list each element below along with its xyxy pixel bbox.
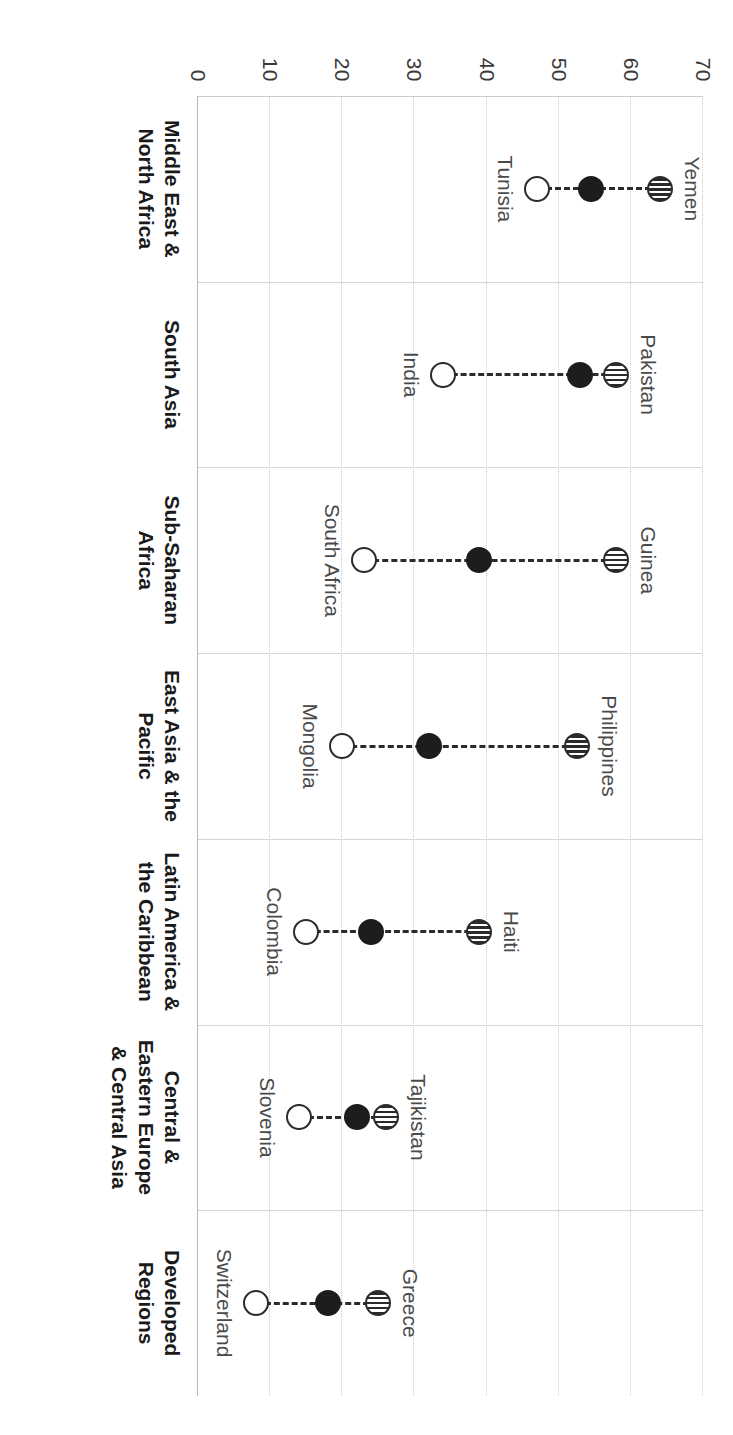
category-label-6: Developed Regions <box>133 1217 186 1389</box>
data-point-average[interactable] <box>416 733 442 759</box>
category-label-0: Middle East & North Africa <box>133 103 186 275</box>
point-label-low: Mongolia <box>298 703 322 788</box>
data-point-low[interactable] <box>286 1104 312 1130</box>
point-label-high: Philippines <box>597 695 621 797</box>
point-label-high: Haiti <box>499 911 523 953</box>
data-point-high[interactable] <box>603 547 629 573</box>
category-label-4: Latin America & the Caribbean <box>133 846 186 1018</box>
data-point-high[interactable] <box>647 176 673 202</box>
gridline-70 <box>702 96 703 1396</box>
data-point-low[interactable] <box>329 733 355 759</box>
category-label-2: Sub-Saharan Africa <box>133 474 186 646</box>
category-separator <box>198 839 703 840</box>
data-point-high[interactable] <box>365 1290 391 1316</box>
point-label-low: Switzerland <box>212 1249 236 1358</box>
range-connector <box>306 930 479 933</box>
category-separator <box>198 467 703 468</box>
point-label-low: Colombia <box>262 887 286 976</box>
plot-left-border <box>198 96 703 97</box>
data-point-average[interactable] <box>315 1290 341 1316</box>
point-label-high: Guinea <box>636 526 660 594</box>
category-separator <box>198 653 703 654</box>
point-label-high: Greece <box>398 1269 422 1338</box>
chart-canvas: 010203040506070YemenTunisiaPakistanIndia… <box>0 0 733 1435</box>
range-connector <box>342 745 576 748</box>
y-tick-label: 40 <box>475 58 499 82</box>
data-point-low[interactable] <box>243 1290 269 1316</box>
data-point-low[interactable] <box>430 362 456 388</box>
category-axis: Middle East & North AfricaSouth AsiaSub-… <box>105 96 185 1396</box>
y-tick-label: 70 <box>691 58 715 82</box>
y-tick-label: 20 <box>330 58 354 82</box>
point-label-low: India <box>399 352 423 398</box>
point-label-low: South Africa <box>320 504 344 617</box>
data-point-average[interactable] <box>344 1104 370 1130</box>
point-label-low: Tunisia <box>493 155 517 222</box>
data-point-high[interactable] <box>603 362 629 388</box>
point-label-low: Slovenia <box>255 1077 279 1158</box>
gridline-10 <box>269 96 270 1396</box>
data-point-low[interactable] <box>524 176 550 202</box>
data-point-low[interactable] <box>351 547 377 573</box>
y-tick-label: 10 <box>258 58 282 82</box>
point-label-high: Yemen <box>680 157 704 222</box>
data-point-average[interactable] <box>358 919 384 945</box>
point-label-high: Tajikistan <box>406 1074 430 1160</box>
y-tick-label: 0 <box>186 70 210 82</box>
point-label-high: Pakistan <box>636 334 660 415</box>
data-point-low[interactable] <box>293 919 319 945</box>
data-point-high[interactable] <box>564 733 590 759</box>
data-point-average[interactable] <box>466 547 492 573</box>
data-point-high[interactable] <box>466 919 492 945</box>
y-tick-label: 30 <box>402 58 426 82</box>
data-point-high[interactable] <box>373 1104 399 1130</box>
y-tick-label: 60 <box>619 58 643 82</box>
category-label-3: East Asia & the Pacific <box>133 660 186 832</box>
category-label-5: Central & Eastern Europe & Central Asia <box>106 1032 185 1204</box>
category-separator <box>198 282 703 283</box>
category-label-1: South Asia <box>159 289 185 461</box>
data-point-average[interactable] <box>578 176 604 202</box>
category-separator <box>198 1025 703 1026</box>
axis-baseline <box>197 96 198 1396</box>
category-separator <box>198 1210 703 1211</box>
data-point-average[interactable] <box>567 362 593 388</box>
plot-area: 010203040506070YemenTunisiaPakistanIndia… <box>198 96 703 1396</box>
gridline-60 <box>630 96 631 1396</box>
y-tick-label: 50 <box>547 58 571 82</box>
